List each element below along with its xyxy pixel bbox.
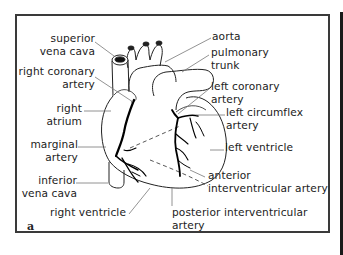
label-line: posterior interventricular xyxy=(172,206,307,219)
label-line: left ventricle xyxy=(225,141,293,154)
label-line: artery xyxy=(172,219,307,232)
label-line: right xyxy=(20,102,82,115)
label-marginal-artery: marginal artery xyxy=(20,138,78,164)
label-line: superior xyxy=(20,32,95,45)
leader-lines xyxy=(76,38,225,214)
label-pulmonary-trunk: pulmonary trunk xyxy=(211,46,269,72)
label-left-ventricle: left ventricle xyxy=(225,141,293,154)
left-coronary-artery xyxy=(172,110,204,176)
label-line: right ventricle xyxy=(40,206,126,219)
label-aorta: aorta xyxy=(212,30,240,43)
label-line: interventricular artery xyxy=(208,182,328,195)
label-line: artery xyxy=(226,119,303,132)
right-coronary-artery xyxy=(116,100,146,182)
pulmonary-trunk xyxy=(153,69,214,110)
posterior-interventricular-dashed xyxy=(130,126,208,186)
label-line: inferior xyxy=(18,174,77,187)
label-line: artery xyxy=(211,93,280,106)
label-line: trunk xyxy=(211,59,269,72)
label-line: anterior xyxy=(208,169,328,182)
right-atrium xyxy=(101,96,113,162)
inferior-vena-cava xyxy=(109,162,124,188)
label-line: artery xyxy=(20,151,78,164)
label-line: left circumflex xyxy=(226,106,303,119)
label-line: vena cava xyxy=(20,45,95,58)
label-line: atrium xyxy=(20,115,82,128)
label-line: pulmonary xyxy=(211,46,269,59)
label-right-atrium: right atrium xyxy=(20,102,82,128)
label-anterior-interventricular-artery: anterior interventricular artery xyxy=(208,169,328,195)
label-line: marginal xyxy=(20,138,78,151)
label-right-coronary-artery: right coronary artery xyxy=(15,65,95,91)
label-right-ventricle: right ventricle xyxy=(40,206,126,219)
label-line: artery xyxy=(15,78,95,91)
label-line: right coronary xyxy=(15,65,95,78)
panel-letter: a xyxy=(27,220,34,233)
label-left-circumflex-artery: left circumflex artery xyxy=(226,106,303,132)
label-line: aorta xyxy=(212,30,240,43)
label-superior-vena-cava: superior vena cava xyxy=(20,32,95,58)
aortic-arch-branches xyxy=(127,41,162,68)
label-line: vena cava xyxy=(18,187,77,200)
label-inferior-vena-cava: inferior vena cava xyxy=(18,174,77,200)
label-posterior-interventricular-artery: posterior interventricular artery xyxy=(172,206,307,232)
label-left-coronary-artery: left coronary artery xyxy=(211,80,280,106)
label-line: left coronary xyxy=(211,80,280,93)
